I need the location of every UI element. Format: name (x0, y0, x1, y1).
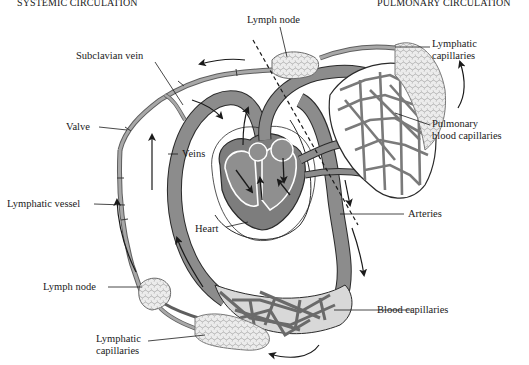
label-lymphatic-vessel: Lymphatic vessel (7, 198, 80, 210)
label-lymphatic-capillaries-top: Lymphatic capillaries (432, 38, 477, 62)
heart (212, 126, 316, 240)
label-lymph-node-bottom: Lymph node (43, 281, 96, 293)
label-subclavian-vein: Subclavian vein (76, 50, 143, 62)
label-veins: Veins (182, 148, 205, 160)
label-lymphatic-capillaries-bottom: Lymphatic capillaries (96, 333, 141, 357)
circulation-diagram: SYSTEMIC CIRCULATION PULMONARY CIRCULATI… (0, 0, 529, 365)
label-blood-capillaries: Blood capillaries (377, 304, 448, 316)
label-valve: Valve (66, 121, 90, 133)
label-pulmonary-blood-capillaries: Pulmonary blood capillaries (432, 118, 502, 142)
label-heart: Heart (195, 223, 218, 235)
label-arteries: Arteries (408, 208, 442, 220)
systemic-circulation-title: SYSTEMIC CIRCULATION (17, 0, 138, 8)
label-lymph-node-top: Lymph node (247, 14, 300, 26)
pulmonary-circulation-title: PULMONARY CIRCULATION (377, 0, 511, 8)
